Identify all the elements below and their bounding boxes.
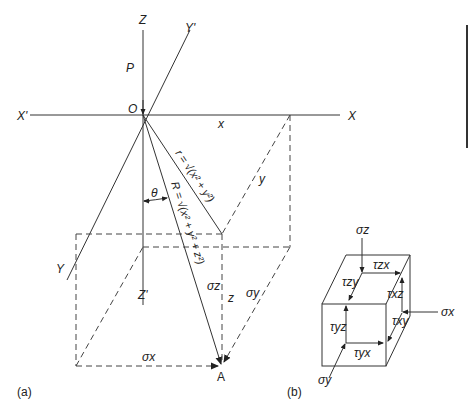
- caption-a: (a): [17, 385, 32, 399]
- z-distance-label: z: [227, 291, 234, 305]
- y-axis-label: Y: [56, 262, 65, 276]
- z-axis-label: Z: [138, 13, 147, 27]
- sigma-z-label: σz: [207, 279, 220, 293]
- sigma-x-label-b: σx: [441, 305, 455, 319]
- sigma-y-label: σy: [246, 286, 260, 300]
- load-label: P: [126, 61, 134, 75]
- x-axis-label: X: [347, 109, 357, 123]
- dashed-y-line: [222, 115, 290, 234]
- origin-label: O: [128, 102, 137, 116]
- y-neg-axis-label: Y': [185, 21, 196, 35]
- x-distance-label: x: [217, 117, 225, 131]
- caption-b: (b): [287, 385, 302, 399]
- sigma-y-label-b: σy: [318, 373, 332, 387]
- sigma-x-label: σx: [142, 350, 156, 364]
- tau-zy-label: τzy: [342, 275, 359, 289]
- tau-xz-label: τxz: [387, 287, 404, 301]
- sigma-z-label-b: σz: [356, 223, 369, 237]
- figure-b: σz τzx τzy τxz σx τxy τyz τyx σy (b): [287, 223, 455, 399]
- tau-yx-label: τyx: [354, 346, 371, 360]
- figure-a: Z Y' P O X' X x y Y Z' θ r = √(x² + y²) …: [16, 13, 357, 399]
- tau-yz-label: τyz: [330, 320, 347, 334]
- z-neg-axis-label: Z': [137, 288, 148, 302]
- y-distance-label: y: [258, 172, 266, 186]
- tau-zx-label: τzx: [373, 258, 390, 272]
- tau-xy-label: τxy: [392, 314, 409, 328]
- stress-diagram-canvas: Z Y' P O X' X x y Y Z' θ r = √(x² + y²) …: [0, 0, 471, 420]
- x-neg-axis-label: X': [16, 109, 28, 123]
- theta-label: θ: [151, 186, 158, 200]
- dashed-diag-left: [76, 247, 143, 366]
- sigma-y-arrow-b: [329, 344, 345, 378]
- point-a-label: A: [217, 370, 225, 384]
